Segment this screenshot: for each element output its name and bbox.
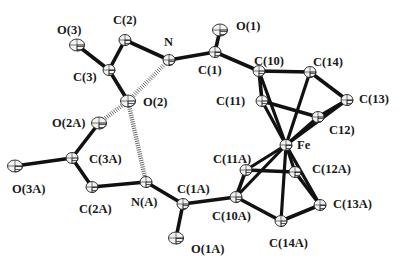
- atom-label-o2a: O(2A): [52, 117, 85, 130]
- atom-o3: [70, 39, 85, 51]
- atom-o3a: [8, 160, 23, 172]
- atom-c1a: [177, 199, 189, 210]
- atom-c12a: [289, 167, 301, 178]
- atom-label-c12a: C(12A): [312, 163, 351, 176]
- atom-label-c14a: C(14A): [269, 237, 308, 250]
- bond-C14A-Fe: [281, 145, 286, 221]
- atom-c3: [103, 65, 115, 76]
- atom-label-c14: C(14): [313, 56, 343, 69]
- atom-label-c11: C(11): [216, 95, 245, 108]
- atom-label-c3: C(3): [73, 71, 97, 84]
- bond-C10-C14: [259, 71, 310, 72]
- atom-label-c2: C(2): [113, 14, 137, 27]
- atom-c13a: [314, 200, 326, 211]
- atom-label-c1a: C(1A): [177, 183, 210, 196]
- atom-label-c3a: C(3A): [89, 153, 122, 166]
- atom-label-fe: Fe: [297, 139, 310, 152]
- bond-C1A-C10A: [183, 197, 236, 204]
- bond-C3A-O3A: [15, 158, 72, 166]
- bond-C14-C13: [310, 72, 347, 100]
- atom-label-c1: C(1): [198, 64, 222, 77]
- hydrogen-bond-O2-O2A: [103, 103, 125, 121]
- atom-label-o1: O(1): [236, 20, 260, 33]
- atom-o1a: [169, 232, 184, 244]
- atom-label-o1a: O(1A): [191, 243, 224, 256]
- atom-c1: [209, 47, 221, 58]
- atom-label-c11a: C(11A): [213, 153, 251, 166]
- atom-label-c13: C(13): [359, 93, 389, 106]
- atom-label-c12: C12): [329, 124, 355, 137]
- atom-label-c13a: C(13A): [333, 198, 372, 211]
- atom-label-c2a: C(2A): [79, 203, 112, 216]
- atom-label-c10a: C(10A): [212, 210, 251, 223]
- atom-label-o3a: O(3A): [12, 183, 45, 196]
- atom-label-o2: O(2): [143, 96, 167, 109]
- atom-n: [163, 55, 175, 66]
- atom-c14a: [275, 216, 287, 227]
- atom-c13: [341, 95, 353, 106]
- atom-label-na: N(A): [131, 196, 157, 209]
- atom-o1: [213, 24, 228, 36]
- bond-N-C1: [169, 52, 215, 60]
- atom-c11a: [240, 165, 252, 176]
- hydrogen-bond-N-O2: [131, 63, 167, 99]
- bond-C11A-C12A: [246, 170, 295, 172]
- atom-label-c10: C(10): [254, 55, 284, 68]
- atom-label-n: N: [164, 36, 173, 49]
- atom-c11: [256, 96, 268, 107]
- atom-fe: [280, 140, 292, 151]
- bond-C2-N: [125, 40, 169, 60]
- atom-label-o3: O(3): [57, 24, 81, 37]
- atom-c10a: [230, 192, 242, 203]
- atom-na: [140, 177, 152, 188]
- atom-c2a: [86, 182, 98, 193]
- atom-c3a: [66, 153, 78, 164]
- atom-o2: [121, 95, 136, 107]
- bond-C2A-NA: [92, 182, 146, 187]
- atom-o2a: [92, 117, 107, 129]
- molecular-structure-diagram: O(3)C(2)NC(3)O(2)O(1)C(1)C(10)C(14)C(13)…: [0, 0, 402, 266]
- hydrogen-bond-O2-NA: [127, 106, 147, 176]
- atom-c12: [312, 112, 324, 123]
- atom-c2: [119, 35, 131, 46]
